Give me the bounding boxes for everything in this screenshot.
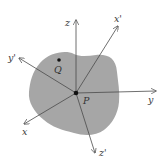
point-p-dot bbox=[74, 91, 79, 96]
y-prime-axis-label: y' bbox=[7, 52, 16, 63]
rigid-body-diagram: z y x x' y' z' P Q bbox=[0, 0, 168, 161]
x-prime-axis-label: x' bbox=[114, 13, 122, 24]
x-axis-label: x bbox=[22, 126, 28, 137]
z-prime-axis-label: z' bbox=[98, 147, 107, 158]
point-q-label: Q bbox=[54, 64, 62, 75]
z-axis-label: z bbox=[64, 17, 71, 28]
y-axis-label: y bbox=[147, 94, 154, 105]
point-q-dot bbox=[57, 58, 61, 62]
point-p-label: P bbox=[82, 95, 90, 106]
